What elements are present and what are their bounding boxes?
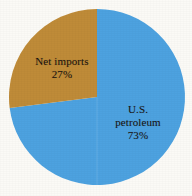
pie-label-us-petroleum-name-line1: U.S.: [96, 103, 180, 116]
pie-label-net-imports: Net imports 27%: [12, 55, 112, 81]
pie-label-net-imports-name: Net imports: [12, 55, 112, 68]
pie-label-us-petroleum-value: 73%: [96, 129, 180, 142]
pie-label-us-petroleum: U.S. petroleum 73%: [96, 103, 180, 142]
pie-label-us-petroleum-name-line2: petroleum: [96, 116, 180, 129]
pie-label-net-imports-value: 27%: [12, 68, 112, 81]
pie-chart-graphic: [0, 0, 192, 196]
pie-chart: Net imports 27% U.S. petroleum 73%: [0, 0, 192, 196]
